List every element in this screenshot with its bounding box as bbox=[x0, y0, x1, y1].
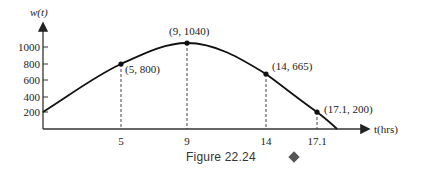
dashed-guides bbox=[121, 43, 317, 129]
x-tick-17-1: 17.1 bbox=[307, 135, 326, 147]
x-tick-5: 5 bbox=[118, 135, 124, 147]
y-tick-labels: 1000 800 600 400 200 bbox=[18, 41, 41, 118]
y-axis-label: w(t) bbox=[30, 6, 48, 19]
y-tick-200: 200 bbox=[24, 106, 41, 118]
y-tick-800: 800 bbox=[24, 58, 41, 70]
y-tick-1000: 1000 bbox=[18, 41, 41, 53]
x-tick-9: 9 bbox=[184, 135, 190, 147]
y-tick-600: 600 bbox=[24, 74, 41, 86]
point-5-800 bbox=[118, 61, 123, 66]
point-14-665 bbox=[263, 71, 268, 76]
x-tick-labels: 5 9 14 17.1 bbox=[118, 135, 326, 147]
label-14-665: (14, 665) bbox=[272, 60, 313, 73]
label-9-1040: (9, 1040) bbox=[169, 25, 210, 38]
y-tick-400: 400 bbox=[24, 91, 41, 103]
x-tick-14: 14 bbox=[261, 135, 273, 147]
point-labels: (5, 800) (9, 1040) (14, 665) (17.1, 200) bbox=[125, 25, 373, 116]
x-axis-label: t(hrs) bbox=[374, 123, 398, 136]
curve-w-of-t bbox=[43, 43, 337, 129]
label-17-1-200: (17.1, 200) bbox=[324, 103, 373, 116]
y-ticks bbox=[43, 47, 48, 112]
figure: 1000 800 600 400 200 w(t) t(hrs) 5 9 14 … bbox=[0, 0, 426, 177]
label-5-800: (5, 800) bbox=[125, 63, 160, 76]
point-9-1040 bbox=[184, 40, 189, 45]
point-17-1-200 bbox=[314, 109, 319, 114]
figure-caption: Figure 22.24 bbox=[186, 150, 256, 164]
